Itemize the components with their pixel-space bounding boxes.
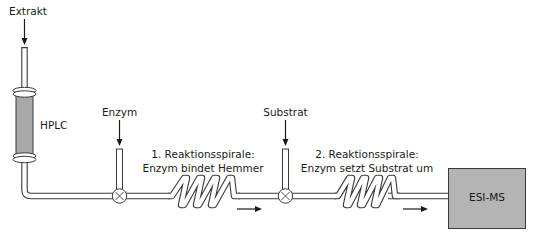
flow-arrow-2-icon: [403, 206, 428, 212]
coil1-description: Enzym bindet Hemmer: [143, 162, 265, 174]
coil1-title: 1. Reaktionsspirale:: [151, 148, 254, 160]
extract-label: Extrakt: [9, 5, 47, 17]
mixing-valve-2-icon: [278, 189, 292, 203]
enzyme-arrow-icon: [117, 120, 123, 146]
mixing-valve-1-icon: [112, 189, 126, 203]
hplc-column: [13, 87, 36, 162]
substrate-arrow-icon: [283, 120, 289, 146]
extract-arrow-icon: [22, 19, 28, 45]
flow-arrow-1-icon: [237, 206, 262, 212]
reaction-coil-1-icon: [168, 178, 240, 205]
reaction-coil-2-icon: [334, 178, 400, 205]
flow-diagram: Extrakt HPLC Enzym: [0, 0, 536, 240]
hplc-label: HPLC: [40, 119, 67, 131]
coil2-description: Enzym setzt Substrat um: [301, 162, 433, 174]
substrate-label: Substrat: [263, 106, 307, 118]
substrate-inlet-tube: [283, 149, 289, 192]
enzyme-inlet-tube: [117, 149, 123, 192]
coil2-title: 2. Reaktionsspirale:: [315, 148, 418, 160]
enzyme-label: Enzym: [102, 106, 137, 118]
detector-label: ESI-MS: [469, 191, 505, 203]
